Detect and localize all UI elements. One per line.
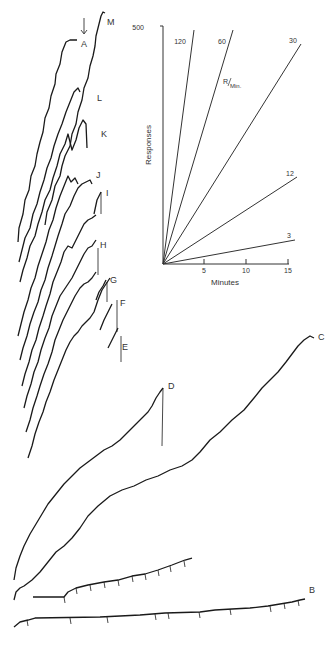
label-H: H	[100, 240, 107, 250]
record-G-top	[96, 280, 106, 300]
record-C-flat	[33, 558, 192, 597]
rate-label-120: 120	[174, 38, 186, 45]
record-L	[19, 88, 80, 262]
cumulative-record-figure: 500 Responses Minutes 5 10 15 120 60 30 …	[0, 0, 336, 646]
label-J: J	[96, 170, 101, 180]
rate-line-120	[163, 30, 194, 264]
record-F	[26, 272, 96, 432]
label-L: L	[97, 93, 102, 103]
rate-label-3: 3	[287, 232, 291, 239]
record-C	[14, 336, 314, 600]
rate-label-60: 60	[218, 38, 226, 45]
rate-line-60	[163, 30, 233, 264]
label-F: F	[120, 298, 126, 308]
inset-y-max-label: 500	[132, 24, 144, 31]
label-D: D	[168, 381, 175, 391]
rate-inset	[160, 26, 301, 264]
record-E-top	[108, 328, 118, 348]
record-labels: M A L K J I H G F E D C B	[81, 17, 325, 595]
rate-label-30: 30	[289, 37, 297, 44]
record-I-top	[94, 192, 101, 214]
record-K	[20, 120, 87, 282]
records	[14, 12, 314, 627]
rate-line-12	[163, 177, 297, 264]
inset-ylabel: Responses	[144, 125, 153, 165]
rate-unit-min: Min.	[230, 83, 242, 89]
inset-x-tick-label-10: 10	[242, 267, 250, 274]
record-D-reset	[162, 388, 163, 446]
label-K: K	[101, 129, 107, 139]
rate-unit-r: R	[223, 78, 228, 85]
rate-label-12: 12	[286, 170, 294, 177]
label-B: B	[309, 585, 315, 595]
record-B	[14, 599, 305, 627]
rate-unit-label: R Min.	[223, 78, 242, 89]
label-C: C	[318, 332, 325, 342]
inset-xlabel: Minutes	[211, 278, 239, 287]
label-E: E	[122, 342, 128, 352]
record-F-top	[100, 304, 112, 330]
inset-x-tick-label-5: 5	[202, 267, 206, 274]
inset-x-tick-label-15: 15	[284, 267, 292, 274]
rate-line-30	[163, 44, 301, 264]
label-G: G	[110, 275, 117, 285]
rate-line-3	[163, 240, 295, 264]
record-D	[14, 388, 163, 580]
label-M: M	[107, 17, 115, 27]
label-I: I	[106, 188, 109, 198]
label-A: A	[81, 39, 87, 49]
record-E	[28, 278, 110, 458]
